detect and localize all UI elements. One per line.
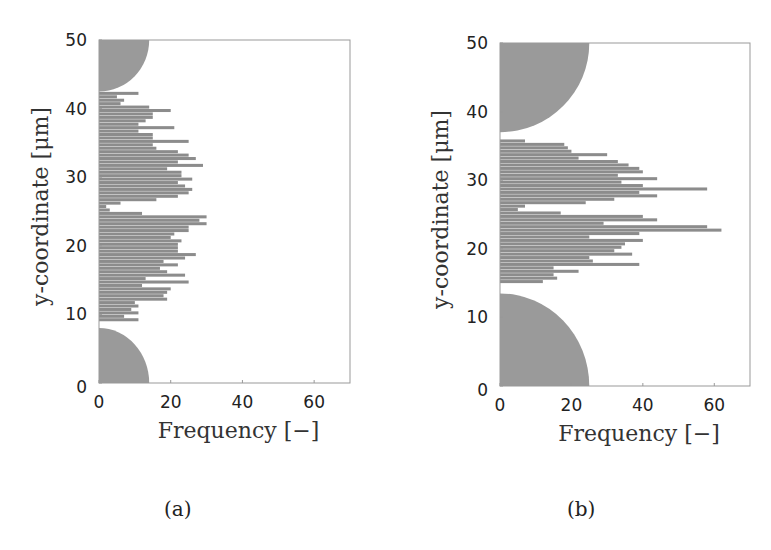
histogram-bar bbox=[99, 263, 178, 266]
histogram-bar bbox=[99, 222, 207, 225]
histogram-bar bbox=[500, 143, 564, 146]
histogram-bar bbox=[500, 187, 707, 190]
histogram-bar bbox=[99, 291, 167, 294]
histogram-bar bbox=[99, 178, 192, 181]
histogram-bar bbox=[99, 191, 189, 194]
histogram-bar bbox=[99, 305, 138, 308]
histogram-bar bbox=[500, 249, 614, 252]
panel-a: 020406001020304050Frequency [−]y-coordin… bbox=[0, 0, 385, 550]
histogram-bar bbox=[99, 150, 178, 153]
histogram-bar bbox=[99, 226, 189, 229]
histogram-bar bbox=[500, 181, 621, 184]
x-tick-label: 0 bbox=[94, 392, 105, 412]
x-tick-label: 0 bbox=[495, 395, 506, 415]
y-tick-label: 0 bbox=[76, 377, 87, 397]
histogram-bar bbox=[99, 130, 138, 133]
histogram-bar bbox=[500, 170, 643, 173]
histogram-bar bbox=[99, 109, 171, 112]
histogram-bar bbox=[99, 301, 135, 304]
x-tick-label: 60 bbox=[303, 392, 325, 412]
caption-a: (a) bbox=[164, 497, 192, 521]
histogram-bar bbox=[99, 112, 153, 115]
histogram-bar bbox=[500, 266, 554, 269]
histogram-bar bbox=[500, 259, 593, 262]
histogram-bar bbox=[99, 208, 110, 211]
x-tick-label: 20 bbox=[561, 395, 583, 415]
plot-frame bbox=[99, 40, 350, 383]
histogram-bar bbox=[99, 236, 171, 239]
histogram-bar bbox=[99, 123, 138, 126]
x-axis-label: Frequency [−] bbox=[558, 421, 720, 446]
histogram-bar bbox=[99, 281, 189, 284]
histogram-bar bbox=[99, 232, 174, 235]
histogram-bar bbox=[500, 150, 571, 153]
histogram-bar bbox=[99, 256, 185, 259]
histogram-bar bbox=[99, 102, 121, 105]
histogram-bar bbox=[99, 95, 117, 98]
histogram-bar bbox=[500, 218, 657, 221]
histogram-bar bbox=[500, 225, 707, 228]
histogram-bar bbox=[99, 143, 153, 146]
histogram-bar bbox=[500, 253, 632, 256]
x-tick-label: 40 bbox=[632, 395, 654, 415]
y-tick-label: 20 bbox=[65, 236, 87, 256]
histogram-bar bbox=[500, 139, 525, 142]
histogram-bar bbox=[500, 194, 657, 197]
histogram-bar bbox=[99, 274, 185, 277]
histogram-bar bbox=[99, 164, 203, 167]
histogram-bar bbox=[500, 246, 621, 249]
histogram-bar bbox=[99, 181, 178, 184]
histogram-bar bbox=[500, 157, 579, 160]
histogram-bar bbox=[99, 219, 199, 222]
histogram-bar bbox=[99, 243, 178, 246]
x-tick-label: 60 bbox=[703, 395, 725, 415]
histogram-bar bbox=[99, 239, 181, 242]
histogram-bar bbox=[500, 177, 657, 180]
histogram-bar bbox=[500, 174, 618, 177]
histogram-bar bbox=[500, 146, 568, 149]
histogram-bar bbox=[500, 235, 589, 238]
histogram-bar bbox=[99, 270, 167, 273]
panel-b: 020406001020304050Frequency [−]y-coordin… bbox=[385, 0, 770, 550]
histogram-bar bbox=[99, 315, 124, 318]
histogram-bar bbox=[500, 163, 629, 166]
histogram-bar bbox=[500, 198, 614, 201]
histogram-bar bbox=[99, 140, 189, 143]
histogram-bar bbox=[99, 246, 178, 249]
y-tick-label: 50 bbox=[65, 30, 87, 50]
histogram-bar bbox=[99, 253, 196, 256]
histogram-bar bbox=[99, 188, 192, 191]
histogram-bar bbox=[99, 205, 106, 208]
histogram-bar bbox=[99, 174, 181, 177]
histogram-bar bbox=[99, 267, 160, 270]
histogram-bar bbox=[99, 294, 164, 297]
histogram-bar bbox=[500, 211, 561, 214]
histogram-bar bbox=[99, 92, 138, 95]
histogram-bar bbox=[99, 157, 196, 160]
y-tick-label: 40 bbox=[466, 102, 488, 122]
histogram-bar bbox=[99, 147, 156, 150]
histogram-bar bbox=[500, 191, 639, 194]
histogram-bar bbox=[99, 284, 142, 287]
histogram-bar bbox=[500, 153, 607, 156]
histogram-bar bbox=[500, 270, 579, 273]
histogram-bar bbox=[500, 256, 589, 259]
histogram-bar bbox=[500, 232, 639, 235]
y-axis-label: y-coordinate [μm] bbox=[28, 107, 53, 307]
histogram-bar bbox=[99, 106, 149, 109]
x-tick-label: 20 bbox=[160, 392, 182, 412]
histogram-bar bbox=[99, 260, 164, 263]
histogram-bar bbox=[99, 308, 131, 311]
caption-b: (b) bbox=[567, 497, 595, 521]
histogram-bar bbox=[500, 242, 625, 245]
histogram-bar bbox=[500, 273, 554, 276]
x-axis-label: Frequency [−] bbox=[158, 418, 320, 443]
histogram-bar bbox=[99, 136, 153, 139]
histogram-bar bbox=[500, 184, 643, 187]
histogram-bar bbox=[99, 198, 156, 201]
histogram-bar bbox=[99, 229, 189, 232]
histogram-bar bbox=[99, 195, 178, 198]
y-tick-label: 30 bbox=[466, 170, 488, 190]
histogram-bar bbox=[99, 184, 185, 187]
histogram-bar bbox=[500, 229, 721, 232]
